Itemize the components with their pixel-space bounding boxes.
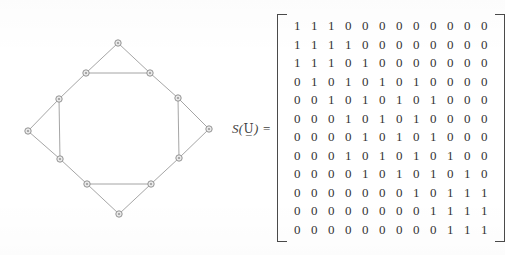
matrix-cell: 1: [391, 93, 408, 106]
matrix-cell: 0: [476, 149, 493, 162]
matrix-cell: 1: [306, 19, 323, 32]
graph-edge: [150, 73, 178, 98]
matrix-cell: 0: [323, 186, 340, 199]
matrix-cell: 1: [340, 75, 357, 88]
matrix-cell: 1: [459, 223, 476, 236]
matrix-cell: 0: [442, 56, 459, 69]
matrix-cell: 0: [391, 38, 408, 51]
matrix-row: 001010101000: [289, 91, 493, 109]
matrix-cell: 0: [323, 167, 340, 180]
matrix-cell: 0: [408, 19, 425, 32]
matrix-cell: 1: [442, 223, 459, 236]
matrix-cell: 0: [459, 75, 476, 88]
matrix-cell: 1: [340, 112, 357, 125]
graph-vertex-core: [150, 183, 152, 185]
matrix-cell: 0: [340, 130, 357, 143]
matrix-cell: 1: [323, 56, 340, 69]
graph-edge: [87, 184, 119, 214]
matrix-cell: 0: [476, 93, 493, 106]
matrix-cell: 0: [323, 223, 340, 236]
matrix-cell: 0: [357, 204, 374, 217]
matrix-cell: 0: [340, 93, 357, 106]
matrix-cell: 0: [459, 56, 476, 69]
matrix-row: 111100000000: [289, 35, 493, 53]
matrix-cell: 0: [374, 130, 391, 143]
graph-edge: [178, 98, 209, 129]
matrix-cell: 0: [306, 167, 323, 180]
matrix-cell: 0: [391, 112, 408, 125]
matrix-cell: 1: [476, 186, 493, 199]
matrix-cell: 1: [289, 19, 306, 32]
matrix-cell: 0: [459, 38, 476, 51]
matrix-cell: 1: [289, 56, 306, 69]
matrix-cell: 0: [442, 167, 459, 180]
matrix-cell: 1: [408, 112, 425, 125]
matrix-cell: 0: [476, 38, 493, 51]
matrix-cell: 0: [408, 38, 425, 51]
graph-vertex-core: [27, 130, 29, 132]
matrix-cell: 1: [306, 75, 323, 88]
matrix-cell: 0: [408, 167, 425, 180]
matrix-cell: 0: [357, 223, 374, 236]
graph-edge: [28, 131, 60, 159]
matrix-cell: 0: [340, 19, 357, 32]
matrix-cell: 1: [374, 75, 391, 88]
matrix-cell: 1: [374, 149, 391, 162]
matrix-cell: 0: [374, 38, 391, 51]
equals-sign: =: [262, 121, 271, 136]
matrix-cell: 0: [374, 204, 391, 217]
graph-edge: [59, 99, 60, 159]
matrix-cell: 0: [408, 93, 425, 106]
matrix-row: 000010101010: [289, 165, 493, 183]
matrix-cell: 1: [425, 93, 442, 106]
matrix-cell: 0: [289, 93, 306, 106]
matrix-cell: 0: [357, 75, 374, 88]
matrix-cell: 0: [425, 112, 442, 125]
matrix-cell: 0: [391, 149, 408, 162]
graph-vertex-core: [85, 72, 87, 74]
matrix-cell: 0: [340, 204, 357, 217]
matrix-cell: 0: [391, 75, 408, 88]
matrix-row: 111010000000: [289, 54, 493, 72]
matrix-cell: 0: [425, 19, 442, 32]
matrix-cell: 0: [374, 186, 391, 199]
matrix-row: 000010101000: [289, 128, 493, 146]
graph-vertex-core: [118, 213, 120, 215]
matrix-cell: 1: [459, 186, 476, 199]
matrix-cell: 1: [323, 38, 340, 51]
matrix-cell: 0: [374, 19, 391, 32]
matrix-cell: 0: [476, 112, 493, 125]
matrix-cell: 0: [476, 167, 493, 180]
matrix-row: 111000000000: [289, 17, 493, 35]
matrix-row: 000000001111: [289, 202, 493, 220]
matrix-cell: 0: [289, 186, 306, 199]
matrix-cell: 0: [289, 167, 306, 180]
matrix-cell: 0: [442, 93, 459, 106]
matrix-row: 000101010100: [289, 146, 493, 164]
matrix-row: 010101010000: [289, 72, 493, 90]
matrix-cell: 0: [442, 130, 459, 143]
matrix-cell: 1: [289, 38, 306, 51]
matrix-cell: 1: [306, 38, 323, 51]
matrix-cell: 0: [357, 112, 374, 125]
matrix-cell: 0: [289, 75, 306, 88]
matrix-cell: 0: [289, 204, 306, 217]
matrix-cell: 0: [357, 186, 374, 199]
matrix-cell: 0: [374, 223, 391, 236]
graph-diagram: [0, 0, 232, 255]
matrix-cell: 1: [425, 130, 442, 143]
matrix-grid: 1110000000001111000000001110100000000101…: [287, 14, 495, 242]
matrix-cell: 0: [391, 186, 408, 199]
matrix-cell: 1: [323, 93, 340, 106]
matrix-cell: 0: [323, 75, 340, 88]
graph-edge: [86, 43, 118, 73]
matrix-cell: 1: [459, 204, 476, 217]
matrix-cell: 0: [459, 149, 476, 162]
matrix-row: 000101010000: [289, 109, 493, 127]
matrix-cell: 0: [306, 204, 323, 217]
matrix-cell: 0: [459, 93, 476, 106]
matrix-cell: 0: [476, 75, 493, 88]
matrix-cell: 1: [357, 56, 374, 69]
graph-edge: [118, 43, 150, 73]
matrix-cell: 1: [391, 167, 408, 180]
